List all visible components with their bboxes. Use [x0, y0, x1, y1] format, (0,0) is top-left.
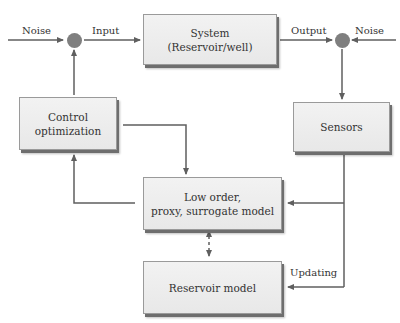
diagram-canvas: Noise Input Output Noise Updating System… [0, 0, 400, 323]
label-output: Output [291, 25, 327, 36]
label-noise-right: Noise [355, 25, 384, 36]
system-box-subtitle: (Reservoir/well) [167, 40, 252, 54]
system-box-title: System [167, 26, 252, 40]
surrogate-box-line1: Low order, [151, 190, 274, 204]
surrogate-model-box: Low order, proxy, surrogate model [143, 177, 282, 230]
label-updating: Updating [290, 267, 337, 278]
sensors-box: Sensors [293, 102, 390, 152]
arrow-surrogate-to-control [74, 155, 135, 203]
label-input: Input [92, 25, 119, 36]
reservoir-box-title: Reservoir model [169, 281, 256, 295]
arrow-control-to-surrogate [123, 125, 186, 174]
surrogate-box-line2: proxy, surrogate model [151, 204, 274, 218]
control-box-line2: optimization [35, 124, 101, 138]
control-box-line1: Control [35, 110, 101, 124]
control-optimization-box: Control optimization [19, 97, 117, 150]
reservoir-model-box: Reservoir model [143, 261, 282, 314]
label-noise-left: Noise [22, 25, 51, 36]
sensors-box-title: Sensors [320, 120, 362, 134]
summing-junction-input [67, 33, 82, 48]
summing-junction-output [335, 33, 350, 48]
system-box: System (Reservoir/well) [143, 14, 277, 65]
